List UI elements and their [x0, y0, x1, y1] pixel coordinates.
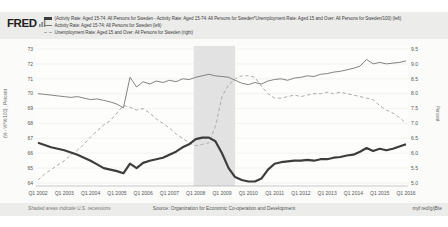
right-axis-tick-label: 6.5 — [411, 135, 418, 141]
graph-header: FRED (Activity Rate: Aged 15-74: All Per… — [0, 12, 448, 39]
legend-item-unemployment-rate[interactable]: Unemployment Rate: Aged 15 and Over: All… — [44, 29, 401, 36]
graph-footer: Shaded areas indicate U.S. recessions So… — [0, 203, 448, 216]
right-axis-tick-label: 7.5 — [411, 105, 418, 111]
right-axis-tick-label: 5.0 — [411, 180, 418, 186]
legend: (Activity Rate: Aged 15-74: All Persons … — [44, 15, 401, 36]
left-axis-tick-label: 72 — [27, 61, 33, 67]
x-axis-tick-label: Q1 2008 — [186, 190, 205, 196]
left-axis-tick-label: 68 — [27, 120, 33, 126]
x-axis-tick-label: Q1 2013 — [318, 190, 337, 196]
source-attribution: Source: Organization for Economic Co-ope… — [0, 206, 448, 211]
legend-label: Activity Rate: Aged 15-74: All Persons f… — [55, 23, 162, 28]
x-axis-tick-label: Q1 2016 — [396, 190, 415, 196]
share-url[interactable]: myf.red/g/jBte — [412, 206, 442, 211]
x-axis-tick-label: Q1 2011 — [265, 190, 284, 196]
right-axis-tick-label: 7.0 — [411, 120, 418, 126]
x-axis-tick-label: Q1 2010 — [239, 190, 258, 196]
left-axis-tick-label: 69 — [27, 105, 33, 111]
left-axis-tick-label: 70 — [27, 90, 33, 96]
legend-item-combined-series[interactable]: (Activity Rate: Aged 15-74: All Persons … — [44, 15, 401, 22]
recession-band — [194, 46, 235, 186]
x-axis-tick-label: Q1 2003 — [55, 190, 74, 196]
legend-marker-thin-line — [44, 25, 52, 26]
legend-label: Unemployment Rate: Aged 15 and Over: All… — [55, 30, 193, 35]
x-axis-tick-label: Q1 2007 — [160, 190, 179, 196]
left-axis-tick-label: 65 — [27, 165, 33, 171]
x-axis-tick-label: Q1 2012 — [291, 190, 310, 196]
x-axis-tick-label: Q1 2006 — [134, 190, 153, 196]
x-axis-tick-label: Q1 2009 — [212, 190, 231, 196]
x-axis-tick-label: Q1 2005 — [107, 190, 126, 196]
left-axis-tick-label: 67 — [27, 135, 33, 141]
x-axis-tick-label: Q1 2002 — [28, 190, 47, 196]
right-axis-tick-label: 5.5 — [411, 165, 418, 171]
right-axis-tick-label: 9.0 — [411, 61, 418, 67]
legend-marker-thick-line — [44, 17, 52, 19]
right-axis-tick-label: 8.0 — [411, 90, 418, 96]
x-axis-tick-label: Q1 2015 — [370, 190, 389, 196]
legend-marker-dashed-line — [44, 32, 52, 33]
fred-graph-screenshot: FRED (Activity Rate: Aged 15-74: All Per… — [0, 0, 448, 227]
x-axis-tick-label: Q1 2004 — [81, 190, 100, 196]
legend-label: (Activity Rate: Aged 15-74: All Persons … — [55, 16, 402, 21]
x-axis-tick-label: Q1 2014 — [344, 190, 363, 196]
chart-svg[interactable]: 646566676869707172735.05.56.06.57.07.58.… — [0, 39, 448, 203]
left-axis-tick-label: 73 — [27, 46, 33, 52]
legend-item-activity-rate[interactable]: Activity Rate: Aged 15-74: All Persons f… — [44, 22, 401, 29]
left-axis-tick-label: 64 — [27, 180, 33, 186]
chart-area: (% - %*%/100) , Percent Percent 64656667… — [0, 39, 448, 203]
right-axis-tick-label: 8.5 — [411, 76, 418, 82]
fred-logo[interactable]: FRED — [7, 17, 47, 29]
fred-logo-text: FRED — [7, 17, 37, 29]
left-axis-tick-label: 66 — [27, 150, 33, 156]
right-axis-tick-label: 9.5 — [411, 46, 418, 52]
left-axis-tick-label: 71 — [27, 76, 33, 82]
right-axis-tick-label: 6.0 — [411, 150, 418, 156]
